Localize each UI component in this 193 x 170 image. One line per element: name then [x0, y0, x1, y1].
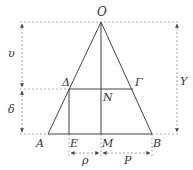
label-M: M [102, 138, 113, 149]
label-delta: δ [8, 104, 15, 115]
label-A: A [36, 138, 44, 149]
triangle-diagram [0, 0, 193, 170]
label-Delta: Δ [62, 77, 70, 88]
label-E: E [70, 138, 78, 149]
label-P: P [124, 155, 131, 166]
label-upsilon: υ [8, 48, 15, 59]
label-B: B [153, 138, 161, 149]
label-Gamma: Γ [135, 77, 143, 88]
label-O: O [97, 6, 107, 18]
label-Y: Y [180, 76, 187, 87]
label-N: N [103, 92, 113, 103]
label-rho: ρ [82, 155, 88, 166]
